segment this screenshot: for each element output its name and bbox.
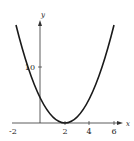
x-axis-label: x [126, 120, 130, 128]
y-axis-arrow-icon [38, 20, 42, 26]
x-tick-label: -2 [9, 127, 17, 136]
y-axis-label: y [40, 11, 46, 19]
y-tick-label: 10 [25, 63, 35, 72]
x-axis-arrow-icon [117, 121, 123, 125]
x-tick-label: 2 [62, 127, 67, 136]
parabola-chart: -2 2 4 6 10 x y [0, 0, 134, 141]
parabola-curve [16, 25, 114, 123]
x-tick-label: 6 [111, 127, 116, 136]
x-tick-label: 4 [86, 127, 91, 136]
